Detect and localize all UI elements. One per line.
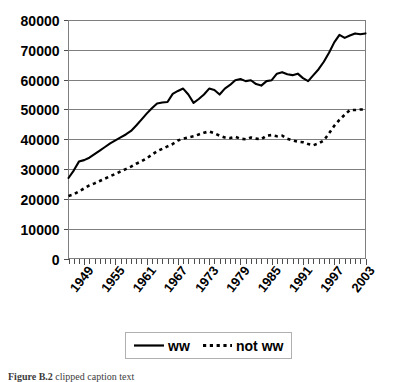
y-axis-tick-label: 0 [52,252,60,268]
x-axis-tick-label: 1961 [129,263,159,295]
legend-label-ww: ww [167,338,190,354]
y-axis-tick-labels: 0100002000030000400005000060000700008000… [21,13,60,268]
x-axis-tick-label: 1997 [317,263,347,295]
x-axis-tick-label: 1967 [161,263,191,295]
caption-prefix: Figure B.2 [8,371,53,382]
gridlines [69,21,366,230]
x-axis-tick-label-group: 1949195519611967197319791985199119972003 [67,263,378,295]
line-chart: 0100002000030000400005000060000700008000… [0,0,416,366]
x-axis-tick-label: 1973 [192,263,222,295]
figure-caption: Figure B.2 clipped caption text [8,371,412,382]
x-axis-tick-label: 1985 [254,263,284,295]
caption-rest: clipped caption text [53,371,134,382]
x-axis-tick-label: 1955 [98,263,128,295]
y-axis-tick-label: 70000 [21,43,60,59]
x-axis-tickmarks [70,259,367,265]
series-line-not-ww [69,109,366,195]
x-axis-tick-label: 1949 [67,263,97,295]
y-axis-tick-label: 30000 [21,162,60,178]
x-axis-tick-label: 1979 [223,263,253,295]
figure-panel: 0100002000030000400005000060000700008000… [0,0,416,382]
y-axis-tick-label: 80000 [21,13,60,29]
y-axis-tick-label: 60000 [21,73,60,89]
y-axis-tickmarks [64,21,69,260]
series-line-ww [69,33,366,178]
legend-label-not-ww: not ww [236,338,284,354]
x-axis-tick-label: 1991 [286,263,316,295]
chart-legend: ww not ww [126,333,292,359]
x-axis-tick-label: 2003 [348,263,378,295]
y-axis-tick-label: 40000 [21,132,60,148]
y-axis-tick-label: 20000 [21,192,60,208]
y-axis-tick-label: 50000 [21,102,60,118]
y-axis-tick-label: 10000 [21,222,60,238]
